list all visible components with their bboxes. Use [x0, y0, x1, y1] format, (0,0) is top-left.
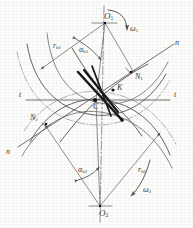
label-angle-alpha-b2: αb2 — [78, 166, 87, 175]
label-omega1: ω1 — [130, 25, 138, 34]
point-N2-marker — [45, 123, 48, 126]
gear-meshing-geometry-figure: O1 ω1 rb1 αb1 n N1 K t t C N2 n αb2 rb2 … — [0, 0, 193, 228]
label-omega2: ω2 — [143, 186, 151, 195]
radius-O1-to-left-arc — [41, 23, 105, 69]
label-tangent-right-t: t — [174, 91, 176, 99]
label-radius-rb1: rb1 — [53, 42, 61, 51]
label-center-O2: O2 — [99, 209, 108, 219]
label-radius-rb2: rb2 — [138, 166, 146, 175]
construction-lines — [17, 6, 176, 222]
diagram-canvas — [0, 0, 193, 228]
label-pitch-point-C: C — [93, 103, 98, 111]
label-normal-line-right-n: n — [175, 39, 179, 47]
point-N1-marker — [130, 71, 133, 74]
point-end-lower-marker — [120, 118, 123, 121]
label-N1: N1 — [135, 73, 143, 82]
line-of-action-nn — [18, 44, 174, 147]
label-angle-alpha-b1: αb1 — [79, 46, 88, 55]
radius-O2-to-C — [96, 100, 100, 206]
label-K: K — [117, 84, 122, 92]
addendum-arc-pinion — [47, 33, 168, 104]
radius-O1-to-N1 — [105, 23, 133, 71]
point-O2-marker — [99, 205, 101, 207]
label-center-O1: O1 — [104, 12, 113, 22]
point-O1-marker — [104, 22, 106, 24]
point-K-marker — [111, 88, 114, 91]
label-tangent-left-t: t — [19, 91, 21, 99]
radius-O2-to-N2 — [45, 125, 100, 206]
label-N2: N2 — [30, 114, 38, 123]
label-normal-line-left-n: n — [6, 148, 10, 156]
radius-O2-to-right-arc — [100, 133, 160, 206]
